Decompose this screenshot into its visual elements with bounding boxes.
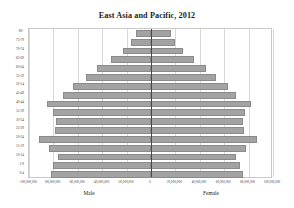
y-tick-label: 5-9 <box>19 163 24 166</box>
x-tick-label: -60,000,000 <box>69 181 85 184</box>
bar-series-group <box>29 29 271 177</box>
x-tick-label: 0 <box>149 181 151 184</box>
bar-male <box>53 109 151 116</box>
bar-male <box>73 83 151 90</box>
bar-row <box>29 136 271 143</box>
plot-area <box>28 28 272 178</box>
bar-row <box>29 74 271 81</box>
bar-female <box>151 101 251 108</box>
chart-title: East Asia and Pacific, 2012 <box>0 11 294 20</box>
bar-female <box>151 56 194 63</box>
x-tick-label: -100,000,000 <box>19 181 37 184</box>
y-tick-label: 80+ <box>19 31 24 34</box>
bar-female <box>151 30 171 37</box>
bar-row <box>29 171 271 178</box>
series-captions: MaleFemale <box>28 190 272 202</box>
bar-row <box>29 48 271 55</box>
bar-male <box>111 56 151 63</box>
bar-row <box>29 83 271 90</box>
bar-row <box>29 65 271 72</box>
bar-male <box>136 30 151 37</box>
y-tick-label: 55-59 <box>16 75 24 78</box>
bar-female <box>151 118 243 125</box>
bar-male <box>131 39 151 46</box>
y-tick-label: 75-79 <box>16 40 24 43</box>
gridline-10 <box>273 29 274 177</box>
bar-female <box>151 162 240 169</box>
bar-male <box>55 127 151 134</box>
bar-female <box>151 48 183 55</box>
x-tick-label: 40,000,000 <box>191 181 206 184</box>
bar-male <box>63 92 151 99</box>
y-tick-label: 10-14 <box>16 154 24 157</box>
y-tick-label: 20-24 <box>16 137 24 140</box>
y-tick-label: 65-69 <box>16 57 24 60</box>
y-tick-label: 30-34 <box>16 119 24 122</box>
bar-male <box>86 74 151 81</box>
bar-female <box>151 145 246 152</box>
bar-female <box>151 136 257 143</box>
bar-male <box>56 118 151 125</box>
bar-male <box>97 65 151 72</box>
bar-row <box>29 92 271 99</box>
x-tick-label: -80,000,000 <box>44 181 60 184</box>
bar-female <box>151 109 245 116</box>
bar-row <box>29 162 271 169</box>
bar-row <box>29 109 271 116</box>
chart-page: East Asia and Pacific, 2012 80+75-7970-7… <box>0 0 294 208</box>
bar-female <box>151 74 216 81</box>
bar-row <box>29 118 271 125</box>
bar-female <box>151 154 236 161</box>
y-axis: 80+75-7970-7465-6960-6455-5950-5445-4940… <box>0 28 26 178</box>
x-tick-label: 80,000,000 <box>240 181 255 184</box>
bar-row <box>29 145 271 152</box>
y-tick-label: 60-64 <box>16 66 24 69</box>
bar-male <box>47 101 151 108</box>
x-tick-label: 100,000,000 <box>264 181 280 184</box>
x-tick-label: -20,000,000 <box>118 181 134 184</box>
bar-male <box>58 154 151 161</box>
bar-female <box>151 39 175 46</box>
bar-male <box>123 48 151 55</box>
y-tick-label: 15-19 <box>16 145 24 148</box>
bar-female <box>151 92 236 99</box>
y-tick-label: 35-39 <box>16 110 24 113</box>
y-tick-label: 50-54 <box>16 84 24 87</box>
bar-male <box>51 171 151 178</box>
x-tick-label: 20,000,000 <box>167 181 182 184</box>
series-caption-male: Male <box>83 190 94 196</box>
bar-row <box>29 30 271 37</box>
bar-female <box>151 83 228 90</box>
bar-row <box>29 154 271 161</box>
bar-row <box>29 56 271 63</box>
y-tick-label: 70-74 <box>16 48 24 51</box>
y-tick-label: 0-4 <box>19 172 24 175</box>
bar-row <box>29 101 271 108</box>
x-tick-label: -40,000,000 <box>93 181 109 184</box>
y-tick-label: 45-49 <box>16 92 24 95</box>
bar-row <box>29 39 271 46</box>
bar-female <box>151 171 243 178</box>
y-tick-label: 25-29 <box>16 128 24 131</box>
bar-male <box>39 136 151 143</box>
bar-female <box>151 65 206 72</box>
bar-row <box>29 127 271 134</box>
bar-male <box>53 162 151 169</box>
x-axis: -100,000,000-80,000,000-60,000,000-40,00… <box>28 181 272 189</box>
y-tick-label: 40-44 <box>16 101 24 104</box>
series-caption-female: Female <box>203 190 219 196</box>
x-tick-label: 60,000,000 <box>216 181 231 184</box>
bar-female <box>151 127 244 134</box>
bar-male <box>49 145 151 152</box>
